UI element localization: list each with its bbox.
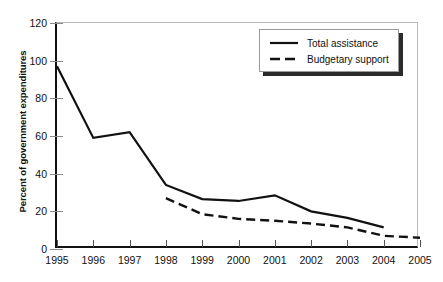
x-tick-label: 1996 bbox=[82, 254, 105, 266]
y-tick-label: 20 bbox=[35, 205, 47, 217]
x-tick-mark bbox=[420, 240, 421, 247]
chart-legend: Total assistance Budgetary support bbox=[259, 29, 399, 72]
chart-figure: Percent of government expenditures 02040… bbox=[0, 0, 443, 282]
y-tick-mark bbox=[50, 249, 57, 250]
legend-label: Budgetary support bbox=[307, 54, 389, 65]
x-tick-label: 2005 bbox=[408, 254, 431, 266]
y-tick-label: 120 bbox=[29, 17, 47, 29]
legend-item-budgetary-support: Budgetary support bbox=[260, 51, 398, 67]
x-tick-label: 1998 bbox=[154, 254, 177, 266]
dashed-line-icon bbox=[269, 54, 299, 64]
x-tick-label: 2000 bbox=[227, 254, 250, 266]
legend-label: Total assistance bbox=[307, 38, 378, 49]
y-tick-mark bbox=[50, 61, 57, 62]
x-tick-label: 1995 bbox=[45, 254, 68, 266]
x-tick-label: 1997 bbox=[118, 254, 141, 266]
y-tick-mark bbox=[50, 136, 57, 137]
x-tick-label: 2003 bbox=[336, 254, 359, 266]
y-tick-mark bbox=[50, 174, 57, 175]
x-tick-label: 2004 bbox=[372, 254, 395, 266]
x-tick-label: 1999 bbox=[191, 254, 214, 266]
y-tick-label: 60 bbox=[35, 130, 47, 142]
legend-item-total-assistance: Total assistance bbox=[260, 35, 398, 51]
x-tick-label: 2001 bbox=[263, 254, 286, 266]
y-tick-mark-inner bbox=[57, 249, 63, 250]
y-tick-mark bbox=[50, 211, 57, 212]
y-tick-label: 100 bbox=[29, 55, 47, 67]
x-tick-label: 2002 bbox=[299, 254, 322, 266]
y-tick-label: 80 bbox=[35, 92, 47, 104]
y-tick-label: 40 bbox=[35, 168, 47, 180]
y-tick-mark bbox=[50, 23, 57, 24]
y-axis-title: Percent of government expenditures bbox=[17, 17, 28, 247]
series-total-assistance bbox=[57, 66, 384, 227]
solid-line-icon bbox=[269, 38, 299, 48]
y-tick-mark bbox=[50, 98, 57, 99]
